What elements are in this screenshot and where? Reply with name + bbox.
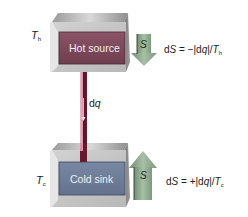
heat-flow-label: dq	[89, 97, 101, 109]
hot-source-label: Hot source	[69, 42, 120, 54]
cold-sink-label: Cold sink	[70, 173, 113, 185]
hot-entropy-symbol: S	[140, 39, 147, 50]
hot-entropy-equation: dS = −|dq|/Th	[164, 44, 222, 56]
hot-temperature-label: Th	[31, 29, 41, 42]
cold-temperature-label: Tc	[36, 174, 46, 187]
cold-entropy-symbol: S	[140, 170, 147, 181]
cold-entropy-equation: dS = +|dq|/Tc	[166, 176, 224, 188]
